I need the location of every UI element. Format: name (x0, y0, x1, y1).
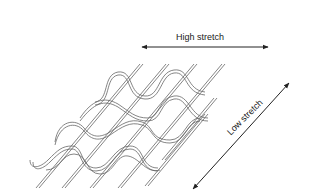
knit-structure-diagram (0, 0, 309, 196)
wavy-yarns (30, 70, 208, 174)
straight-yarns (36, 64, 225, 188)
high-stretch-label: High stretch (176, 32, 224, 42)
low-stretch-arrow (193, 83, 289, 189)
